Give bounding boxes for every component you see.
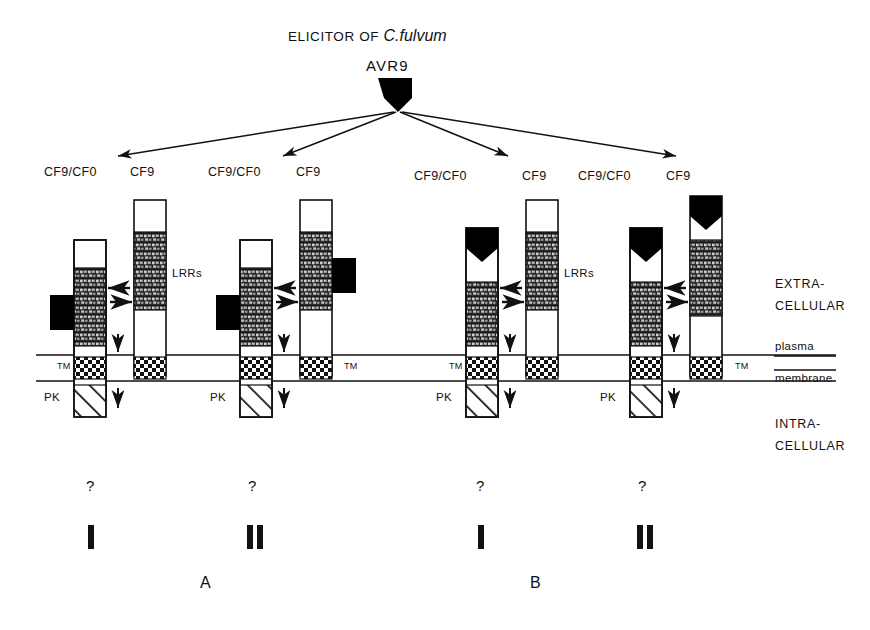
receptor-label-a2-right: CF9	[296, 166, 321, 179]
lrrs-label-b: LRRs	[564, 268, 594, 280]
title-species: C.fulvum	[383, 27, 446, 44]
receptor-label-a1-left: CF9/CF0	[44, 166, 97, 179]
avr9-label: AVR9	[366, 58, 409, 73]
lrr-domain	[526, 232, 558, 310]
branch-arrows	[118, 112, 676, 156]
tm-domain	[526, 357, 558, 379]
interaction-arrows-a1	[108, 288, 132, 302]
membrane-label: membrane	[775, 373, 832, 385]
pk-label-a1: PK	[44, 392, 60, 404]
extracellular-label-line1: EXTRA-	[775, 278, 825, 291]
lrr-domain	[690, 240, 722, 316]
group-label-a: A	[200, 575, 211, 591]
model-a2	[216, 200, 356, 417]
question-mark-a1: ?	[86, 478, 94, 493]
roman-marks	[88, 525, 653, 549]
tm-domain	[74, 357, 106, 379]
pk-label-b2: PK	[600, 392, 616, 404]
tm-domain	[466, 357, 498, 379]
pk-domain	[630, 385, 662, 417]
pk-domain	[74, 385, 106, 417]
model-b1	[466, 200, 558, 417]
extracellular-label-line2: CELLULAR	[775, 300, 845, 313]
avr9-elicitor-glyph	[378, 78, 412, 112]
receptor-b2-right	[690, 196, 722, 379]
receptor-label-a1-right: CF9	[130, 166, 155, 179]
model-a1	[50, 200, 166, 417]
intracellular-label-line1: INTRA-	[775, 418, 821, 431]
lrr-domain	[74, 268, 106, 346]
receptor-label-b1-right: CF9	[522, 170, 547, 183]
receptor-a1-right	[134, 200, 166, 379]
receptor-label-b1-left: CF9/CF0	[414, 170, 467, 183]
lrr-domain	[466, 282, 498, 346]
tm-domain	[240, 357, 272, 379]
lrr-domain	[630, 282, 662, 346]
question-mark-a2: ?	[248, 478, 256, 493]
tm-domain	[690, 357, 722, 379]
elicitor-bound-side	[216, 295, 240, 330]
model-b2	[630, 196, 722, 417]
tm-label-a1: TM	[57, 362, 70, 371]
lrrs-label-a: LRRs	[172, 268, 202, 280]
tm-domain	[300, 357, 332, 379]
title-prefix: ELICITOR OF	[288, 29, 379, 44]
branch-arrow-b1	[400, 112, 508, 156]
plasma-label: plasma	[775, 341, 814, 353]
interaction-arrows-b2	[664, 288, 688, 302]
receptor-b2-left	[630, 228, 662, 417]
branch-arrow-a2	[283, 112, 396, 156]
tm-label-a2: TM	[344, 362, 357, 371]
receptor-b1-left	[466, 228, 498, 417]
interaction-arrows-b1	[500, 288, 524, 302]
pk-domain	[466, 385, 498, 417]
pk-label-a2: PK	[210, 392, 226, 404]
interaction-arrows-a2	[274, 288, 298, 302]
tm-label-b1: TM	[449, 362, 462, 371]
receptor-label-a2-left: CF9/CF0	[208, 166, 261, 179]
branch-arrow-b2	[402, 112, 676, 156]
tm-label-b2: TM	[735, 362, 748, 371]
figure-canvas: ELICITOR OF C.fulvum AVR9 CF9/CF0 CF9 CF…	[0, 0, 870, 630]
lrr-domain	[134, 232, 166, 310]
branch-arrow-a1	[118, 112, 394, 156]
side-label-rules	[774, 356, 836, 370]
tm-domain	[134, 357, 166, 379]
intracellular-label-line2: CELLULAR	[775, 440, 845, 453]
figure-title: ELICITOR OF C.fulvum	[288, 28, 447, 44]
elicitor-bound-side	[332, 258, 356, 293]
receptor-b1-right	[526, 200, 558, 379]
pk-label-b1: PK	[436, 392, 452, 404]
pk-domain	[240, 385, 272, 417]
diagram-svg	[0, 0, 870, 630]
lrr-domain	[300, 232, 332, 310]
group-label-b: B	[530, 575, 541, 591]
receptor-label-b2-right: CF9	[666, 170, 691, 183]
question-mark-b1: ?	[476, 478, 484, 493]
question-mark-b2: ?	[638, 478, 646, 493]
receptor-a2-right	[300, 200, 356, 379]
elicitor-bound-side	[50, 295, 74, 330]
receptor-label-b2-left: CF9/CF0	[578, 170, 631, 183]
tm-domain	[630, 357, 662, 379]
lrr-domain	[240, 268, 272, 346]
